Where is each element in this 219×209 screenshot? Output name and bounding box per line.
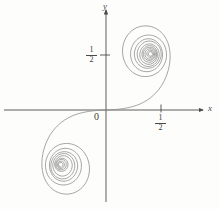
- cornu-spiral-lower-branch: [42, 110, 106, 194]
- x-tick-denominator: 2: [155, 124, 166, 132]
- x-axis-tick-label-half: 1 2: [155, 114, 166, 133]
- cornu-spiral-upper-branch: [106, 26, 170, 110]
- cornu-spiral-figure: 1 2 1 2 y x 0: [0, 0, 219, 209]
- y-tick-numerator: 1: [86, 46, 97, 54]
- y-axis-label: y: [103, 2, 107, 11]
- y-tick-denominator: 2: [86, 56, 97, 64]
- x-tick-numerator: 1: [155, 114, 166, 122]
- y-axis-tick-label-half: 1 2: [86, 46, 97, 65]
- plot-canvas: [0, 0, 219, 209]
- x-axis-label: x: [208, 104, 212, 113]
- origin-label: 0: [94, 112, 99, 122]
